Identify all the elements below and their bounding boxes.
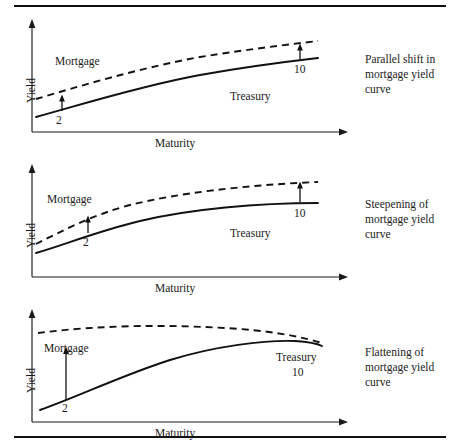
y-axis-arrowhead <box>29 19 36 28</box>
maturity-mark-2: 2 <box>62 401 68 416</box>
mortgage-label: Mortgage <box>47 192 92 207</box>
maturity-mark-2: 2 <box>56 113 62 128</box>
maturity-mark-10: 10 <box>294 206 306 221</box>
y-axis-label: Yield <box>24 78 39 103</box>
x-axis-label: Maturity <box>155 281 195 296</box>
panel-caption-flattening: Flattening of mortgage yield curve <box>365 345 457 391</box>
panel-caption-parallel-shift: Parallel shift in mortgage yield curve <box>365 52 457 98</box>
mortgage-label: Mortgage <box>44 341 89 356</box>
x-axis-arrowhead <box>339 274 348 281</box>
x-axis-arrowhead <box>339 419 348 426</box>
mortgage-label: Mortgage <box>55 54 100 69</box>
y-axis-arrowhead <box>29 309 36 318</box>
plot-area-flattening <box>0 300 360 445</box>
x-axis-label: Maturity <box>155 426 195 441</box>
y-axis-label: Yield <box>24 223 39 248</box>
x-axis-arrowhead <box>339 129 348 136</box>
plot-area-parallel-shift <box>0 10 360 155</box>
treasury-label: Treasury <box>230 89 270 104</box>
panel-flattening: Yield Maturity Mortgage Treasury 2 10 Fl… <box>0 300 457 445</box>
yield-curve-figure: Yield Maturity Mortgage Treasury 2 10 Pa… <box>0 0 457 445</box>
y-axis-arrowhead <box>29 164 36 173</box>
spread-arrow-2-head <box>85 216 91 223</box>
spread-arrow-10-head <box>297 182 303 189</box>
treasury-label: Treasury <box>276 350 316 365</box>
treasury-curve-solid <box>36 203 318 253</box>
maturity-mark-2: 2 <box>83 235 89 250</box>
x-axis-label: Maturity <box>155 136 195 151</box>
mortgage-curve-dashed <box>36 41 318 99</box>
panel-steepening: Yield Maturity Mortgage Treasury 2 10 St… <box>0 155 457 300</box>
panel-caption-steepening: Steepening of mortgage yield curve <box>365 197 457 243</box>
maturity-mark-10: 10 <box>294 62 306 77</box>
treasury-label: Treasury <box>230 226 270 241</box>
plot-area-steepening <box>0 155 360 300</box>
top-divider-rule <box>14 5 446 7</box>
spread-arrow-2-head <box>59 95 65 102</box>
y-axis-label: Yield <box>24 368 39 393</box>
spread-arrow-10-head <box>297 44 303 51</box>
maturity-mark-10: 10 <box>292 365 304 380</box>
panel-parallel-shift: Yield Maturity Mortgage Treasury 2 10 Pa… <box>0 10 457 155</box>
